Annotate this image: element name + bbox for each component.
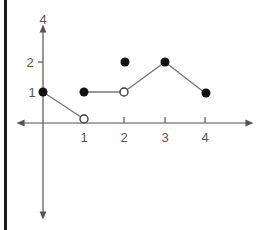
- filled-point-0-1: [39, 88, 48, 97]
- x-label-1: 1: [80, 130, 87, 145]
- x-label-4: 4: [201, 130, 208, 145]
- x-axis-left-arrow-icon: [18, 121, 24, 126]
- x-axis-right-arrow-icon: [246, 121, 252, 126]
- y-label-1: 1: [28, 85, 35, 100]
- graph-points: [39, 58, 211, 124]
- open-point-2-1: [120, 88, 128, 96]
- y-axis-down-arrow-icon: [41, 212, 46, 218]
- filled-point-3-2: [161, 58, 170, 67]
- function-graph: 4 2 1 1 2 3 4: [0, 0, 268, 230]
- filled-point-1-1: [80, 88, 89, 97]
- segment-2-3: [124, 62, 165, 92]
- y-label-top: 4: [39, 12, 46, 27]
- axes: [18, 26, 252, 218]
- segment-0-1: [43, 92, 84, 119]
- segment-3-4: [165, 62, 205, 93]
- x-label-3: 3: [161, 130, 168, 145]
- filled-point-4-1: [202, 89, 211, 98]
- filled-point-2-2: [121, 58, 130, 67]
- y-label-2: 2: [26, 55, 33, 70]
- open-point-1-0: [80, 115, 88, 123]
- x-label-2: 2: [120, 130, 127, 145]
